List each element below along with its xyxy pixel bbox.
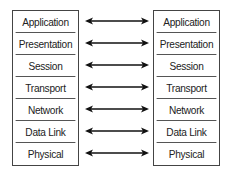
left-layer-session: Session [16, 55, 76, 77]
right-osi-stack: Application Presentation Session Transpo… [153, 10, 220, 166]
double-arrow-icon [83, 10, 150, 32]
left-layer-physical: Physical [16, 143, 76, 165]
double-arrow-icon [83, 32, 150, 54]
left-layer-data-link: Data Link [16, 121, 76, 143]
right-layer-presentation: Presentation [157, 33, 217, 55]
right-layer-session: Session [157, 55, 217, 77]
double-arrow-icon [83, 76, 150, 98]
right-layer-application: Application [157, 11, 217, 33]
right-layer-data-link: Data Link [157, 121, 217, 143]
right-layer-physical: Physical [157, 143, 217, 165]
double-arrow-icon [83, 54, 150, 76]
double-arrow-icon [83, 142, 150, 164]
left-layer-transport: Transport [16, 77, 76, 99]
right-layer-transport: Transport [157, 77, 217, 99]
left-layer-presentation: Presentation [16, 33, 76, 55]
right-layer-network: Network [157, 99, 217, 121]
left-osi-stack: Application Presentation Session Transpo… [12, 10, 79, 166]
peer-connectors [83, 10, 150, 164]
double-arrow-icon [83, 98, 150, 120]
double-arrow-icon [83, 120, 150, 142]
left-layer-network: Network [16, 99, 76, 121]
left-layer-application: Application [16, 11, 76, 33]
